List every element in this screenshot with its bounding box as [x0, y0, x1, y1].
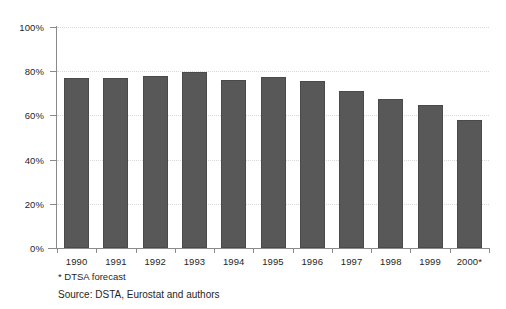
footnote-text: * DTSA forecast [58, 271, 126, 282]
bar-2000f [457, 120, 482, 248]
bar-1995 [261, 77, 286, 248]
x-axis-line [48, 248, 489, 249]
bar-1997 [339, 91, 364, 248]
bar-1999 [418, 105, 443, 248]
x-axis-tick-mark [214, 248, 215, 253]
bar-1992 [143, 76, 168, 248]
y-axis-tick-label: 0% [0, 243, 44, 254]
y-axis-tick-label: 20% [0, 199, 44, 210]
x-axis-tick-mark [136, 248, 137, 253]
x-axis-tick-mark [293, 248, 294, 253]
y-axis-tick-label: 80% [0, 66, 44, 77]
y-axis-tick-label: 60% [0, 110, 44, 121]
bar-1998 [378, 99, 403, 248]
y-axis-tick-mark [50, 115, 57, 116]
x-axis-tick-mark [96, 248, 97, 253]
x-axis-tick-mark [175, 248, 176, 253]
chart-figure: 0%20%40%60%80%100% 199019911992199319941… [0, 0, 506, 309]
y-axis-tick-label: 100% [0, 22, 44, 33]
y-axis-tick-mark [50, 204, 57, 205]
bar-1991 [103, 78, 128, 248]
x-axis-tick-mark [57, 248, 58, 253]
plot-area [57, 27, 489, 248]
x-axis-tick-mark [332, 248, 333, 253]
bar-1990 [64, 78, 89, 248]
x-axis-tick-mark [489, 248, 490, 253]
x-axis-tick-mark [410, 248, 411, 253]
bar-1994 [221, 80, 246, 248]
y-axis-tick-mark [50, 248, 57, 249]
y-axis-tick-mark [50, 71, 57, 72]
x-axis-label: 2000* [443, 256, 495, 267]
x-axis-tick-mark [450, 248, 451, 253]
y-axis-tick-mark [50, 27, 57, 28]
y-axis-tick-mark [50, 160, 57, 161]
x-axis-tick-mark [371, 248, 372, 253]
y-axis-tick-label: 40% [0, 155, 44, 166]
x-axis-tick-mark [253, 248, 254, 253]
bar-1996 [300, 81, 325, 248]
bar-1993 [182, 72, 207, 248]
source-note-text: Source: DSTA, Eurostat and authors [58, 289, 220, 300]
